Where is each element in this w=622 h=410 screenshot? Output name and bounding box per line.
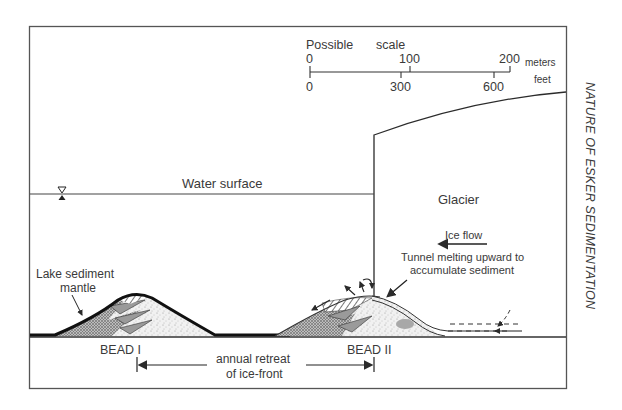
retreat-label-line1: annual retreat xyxy=(216,352,291,366)
tunnel-pointer-arrow-icon xyxy=(388,280,407,296)
tunnel-label-line1: Tunnel melting upward to xyxy=(401,251,524,263)
water-surface-label: Water surface xyxy=(182,176,262,191)
scale-bar: Possible scale 0 100 200 meters 0 300 60… xyxy=(306,38,556,94)
scale-title-right: scale xyxy=(376,38,405,52)
scale-ft-0: 0 xyxy=(306,80,313,94)
retreat-label-line2: of ice-front xyxy=(226,367,283,381)
lake-sediment-label-line1: Lake sediment xyxy=(36,267,115,281)
annual-retreat-indicator: annual retreat of ice-front xyxy=(137,352,374,381)
scale-title-left: Possible xyxy=(306,38,353,52)
figure-side-title: NATURE OF ESKER SEDIMENTATION xyxy=(583,82,597,309)
scale-m-200: 200 xyxy=(499,52,520,66)
lake-sediment-label-line2: mantle xyxy=(60,281,96,295)
scale-feet-unit: feet xyxy=(534,74,551,85)
ice-flow-label: Ice flow xyxy=(445,229,482,241)
esker-diagram: Possible scale 0 100 200 meters 0 300 60… xyxy=(0,0,622,410)
scale-meters-unit: meters xyxy=(525,57,556,68)
bead-2-label: BEAD II xyxy=(347,343,391,357)
water-surface: Water surface xyxy=(30,176,374,200)
glacier-label: Glacier xyxy=(438,192,480,207)
scale-ft-300: 300 xyxy=(390,80,411,94)
ice-flow: Ice flow Tunnel melting upward to accumu… xyxy=(388,229,524,296)
bead-1: Lake sediment mantle xyxy=(30,267,290,336)
scale-m-100: 100 xyxy=(399,52,420,66)
scale-m-0: 0 xyxy=(306,52,313,66)
bead-1-label: BEAD I xyxy=(100,343,141,357)
scale-ft-600: 600 xyxy=(483,80,504,94)
tunnel-label-line2: accumulate sediment xyxy=(410,264,514,276)
lake-sediment-pointer-arrow-icon xyxy=(72,295,82,315)
water-level-symbol-icon xyxy=(58,187,66,193)
